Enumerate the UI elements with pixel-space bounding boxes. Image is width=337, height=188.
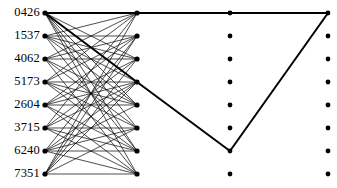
node-c0-r0 (42, 10, 47, 15)
thick-edge-c2r6-c3r0 (230, 13, 328, 151)
edge-s0r6-s1r7 (45, 151, 137, 174)
node-c1-r5 (134, 125, 139, 130)
node-c3-r3 (326, 80, 331, 85)
node-c3-r6 (326, 149, 331, 154)
node-c1-r4 (134, 102, 139, 107)
trellis-graph-canvas (0, 0, 337, 188)
node-c0-r2 (42, 56, 47, 61)
thick-edge-c1r3-c2r6 (137, 82, 230, 151)
node-c0-r4 (42, 102, 47, 107)
node-c2-r4 (228, 103, 233, 108)
node-c2-r3 (228, 80, 233, 85)
thin-edge-group (45, 13, 137, 174)
node-c2-r7 (228, 172, 233, 177)
node-c3-r2 (326, 57, 331, 62)
node-c0-r1 (42, 33, 47, 38)
node-c3-r5 (326, 126, 331, 131)
trellis-diagram: 04261537406251732604371562407351 (0, 0, 337, 188)
node-c1-r3 (134, 79, 139, 84)
node-c1-r2 (134, 56, 139, 61)
node-c1-r1 (134, 33, 139, 38)
node-c0-r3 (42, 79, 47, 84)
node-c2-r1 (228, 34, 233, 39)
node-c1-r7 (134, 171, 139, 176)
node-c3-r0 (326, 11, 331, 16)
node-group (42, 10, 330, 176)
node-c1-r0 (134, 10, 139, 15)
node-c2-r5 (228, 126, 233, 131)
node-c3-r4 (326, 103, 331, 108)
node-c3-r1 (326, 34, 331, 39)
node-c2-r2 (228, 57, 233, 62)
node-c1-r6 (134, 148, 139, 153)
node-c0-r6 (42, 148, 47, 153)
node-c2-r6 (228, 149, 233, 154)
node-c0-r5 (42, 125, 47, 130)
node-c0-r7 (42, 171, 47, 176)
node-c2-r0 (228, 11, 233, 16)
node-c3-r7 (326, 172, 331, 177)
